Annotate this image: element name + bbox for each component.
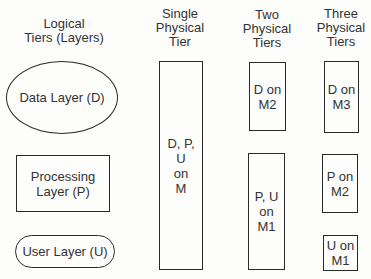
three-tier-data-box: D on M3 [324,61,359,133]
user-layer-pill: User Layer (U) [15,235,115,268]
user-layer-label: User Layer (U) [22,244,107,259]
three-tier-user-box: U on M1 [323,235,358,271]
three-tier-user-label: U on M1 [327,238,354,268]
header-logical-tiers: Logical Tiers (Layers) [14,17,114,45]
single-tier-label: D, P, U on M [167,136,194,196]
processing-layer-label: Processing Layer (P) [31,169,95,199]
two-tier-pu-label: P, U on M1 [255,189,279,234]
three-tier-processing-box: P on M2 [322,154,358,213]
two-tier-data-label: D on M2 [254,82,281,112]
data-layer-ellipse: Data Layer (D) [6,61,118,134]
three-tier-data-label: D on M3 [328,82,355,112]
single-tier-box: D, P, U on M [159,61,203,270]
two-tier-pu-box: P, U on M1 [248,153,285,270]
processing-layer-box: Processing Layer (P) [16,155,110,212]
three-tier-processing-label: P on M2 [327,169,354,199]
header-three-physical-tiers: Three Physical Tiers [306,7,371,49]
header-two-physical-tiers: Two Physical Tiers [232,8,302,50]
data-layer-label: Data Layer (D) [19,90,104,105]
two-tier-data-box: D on M2 [249,62,286,131]
header-single-physical-tier: Single Physical Tier [145,7,215,49]
